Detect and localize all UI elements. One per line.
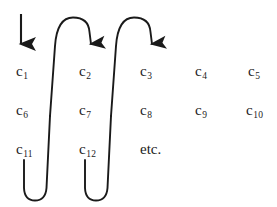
cell-c9-base: c — [195, 102, 202, 118]
cell-c10-base: c — [246, 102, 253, 118]
cell-c12: c12 — [79, 142, 96, 159]
cell-c4-base: c — [195, 63, 202, 79]
cell-c6: c6 — [16, 103, 28, 120]
cell-c12-subscript: 12 — [86, 149, 96, 159]
cell-c3-base: c — [140, 63, 147, 79]
cell-c6-subscript: 6 — [23, 110, 28, 120]
cell-c3-subscript: 3 — [147, 71, 152, 81]
cell-c2: c2 — [79, 64, 91, 81]
cell-c12-base: c — [79, 141, 86, 157]
serpentine-traversal-diagram: c1 c2 c3 c4 c5 c6 c7 c8 c9 c10 — [0, 0, 277, 207]
cell-label-grid: c1 c2 c3 c4 c5 c6 c7 c8 c9 c10 — [0, 0, 277, 207]
cell-c5-subscript: 5 — [255, 71, 260, 81]
cell-c8: c8 — [140, 103, 152, 120]
cell-c9: c9 — [195, 103, 207, 120]
cell-c5: c5 — [248, 64, 260, 81]
cell-c11: c11 — [16, 142, 33, 159]
cell-c2-base: c — [79, 63, 86, 79]
cell-c4: c4 — [195, 64, 207, 81]
cell-c11-subscript: 11 — [23, 149, 33, 159]
cell-c4-subscript: 4 — [202, 71, 207, 81]
cell-c10-subscript: 10 — [253, 110, 263, 120]
cell-c1-base: c — [16, 63, 23, 79]
cell-c5-base: c — [248, 63, 255, 79]
etc-label: etc. — [140, 142, 161, 157]
cell-c7-base: c — [79, 102, 86, 118]
cell-c3: c3 — [140, 64, 152, 81]
cell-c7: c7 — [79, 103, 91, 120]
cell-c8-base: c — [140, 102, 147, 118]
cell-c7-subscript: 7 — [86, 110, 91, 120]
cell-c6-base: c — [16, 102, 23, 118]
cell-c11-base: c — [16, 141, 23, 157]
cell-c9-subscript: 9 — [202, 110, 207, 120]
cell-c1-subscript: 1 — [23, 71, 28, 81]
cell-c1: c1 — [16, 64, 28, 81]
cell-c10: c10 — [246, 103, 263, 120]
cell-c2-subscript: 2 — [86, 71, 91, 81]
cell-c8-subscript: 8 — [147, 110, 152, 120]
